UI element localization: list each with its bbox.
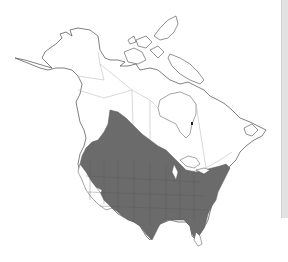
north-america-map [0,0,282,262]
interior-marker [191,122,193,125]
arctic-island-2 [150,46,164,58]
ellesmere-island [154,16,178,40]
range-map [0,0,282,262]
side-panel-strip [281,0,288,218]
arctic-island-3 [128,36,136,44]
arctic-island-1 [136,36,152,48]
baffin-island [168,54,204,84]
victoria-island [124,48,146,64]
